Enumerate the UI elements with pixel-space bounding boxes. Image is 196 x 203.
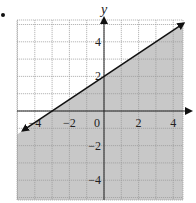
y-tick-label: −4 — [88, 173, 101, 187]
x-tick-label: −2 — [63, 116, 76, 130]
x-tick-label: 2 — [136, 116, 142, 130]
y-tick-label: 4 — [95, 35, 101, 49]
plot-area: y−4−2024−4−224 — [0, 0, 196, 203]
bullet-marker — [1, 13, 5, 17]
y-axis-label: y — [99, 2, 108, 17]
y-tick-label: −2 — [88, 139, 101, 153]
x-tick-label: 0 — [94, 116, 100, 130]
inequality-graph: y−4−2024−4−224 — [0, 0, 196, 203]
x-tick-label: 4 — [170, 116, 176, 130]
